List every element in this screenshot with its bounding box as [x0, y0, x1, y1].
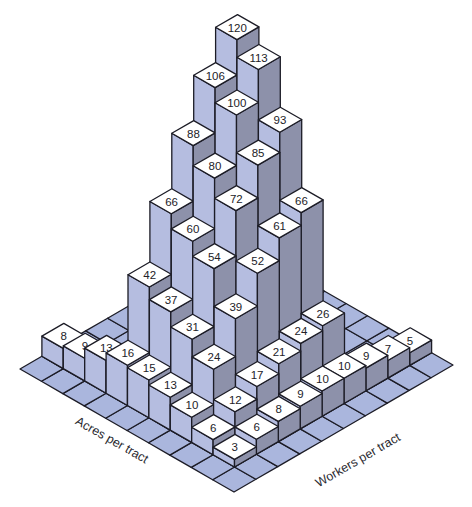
bar-value-label: 24 — [208, 351, 221, 363]
bar-value-label: 12 — [229, 394, 242, 406]
bar-value-label: 8 — [60, 330, 66, 342]
chart-canvas: 1201061138881009359668085667134260726126… — [0, 0, 472, 507]
bar-value-label: 88 — [187, 128, 200, 140]
bar-value-label: 39 — [229, 301, 242, 313]
bar-value-label: 66 — [295, 195, 308, 207]
bar-value-label: 85 — [252, 147, 265, 159]
bar-value-label: 37 — [165, 294, 178, 306]
bar-value-label: 16 — [121, 347, 134, 359]
bar-value-label: 93 — [274, 114, 287, 126]
bar-value-label: 26 — [317, 308, 330, 320]
bar-value-label: 15 — [143, 362, 156, 374]
bar-value-label: 100 — [227, 97, 246, 109]
bar-value-label: 6 — [253, 421, 259, 433]
bar-value-label: 13 — [164, 379, 177, 391]
bar-value-label: 24 — [295, 325, 308, 337]
bar-value-label: 7 — [385, 343, 391, 355]
bar-value-label: 120 — [228, 22, 247, 34]
bar-value-label: 113 — [249, 52, 267, 64]
bar-value-label: 21 — [273, 346, 286, 358]
bar-value-label: 10 — [338, 360, 351, 372]
bar-value-label: 72 — [230, 193, 243, 205]
bar-value-label: 60 — [187, 223, 200, 235]
bar-value-label: 17 — [251, 369, 264, 381]
bar-value-label: 6 — [210, 422, 216, 434]
bar-value-label: 61 — [273, 220, 286, 232]
bar-value-label: 80 — [209, 160, 222, 172]
bar-value-label: 9 — [297, 388, 303, 400]
bar-value-label: 5 — [407, 335, 413, 347]
bar-value-label: 54 — [208, 251, 221, 263]
bar-value-label: 42 — [143, 269, 156, 281]
bar-value-label: 9 — [363, 350, 369, 362]
bar-value-label: 31 — [186, 321, 199, 333]
bar-value-label: 66 — [165, 196, 178, 208]
bar-value-label: 106 — [206, 70, 225, 82]
bar-value-label: 3 — [232, 441, 238, 453]
bar-value-label: 8 — [275, 403, 281, 415]
bar-value-label: 52 — [251, 255, 264, 267]
bar-value-label: 10 — [186, 399, 199, 411]
bar-value-label: 10 — [316, 373, 329, 385]
isometric-3d-bar-chart: 1201061138881009359668085667134260726126… — [0, 0, 472, 507]
